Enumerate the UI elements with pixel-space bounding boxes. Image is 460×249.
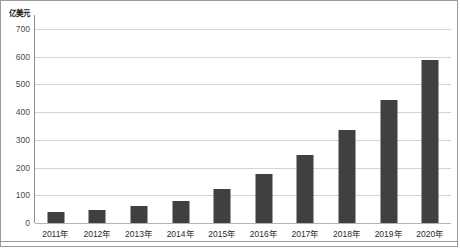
x-axis-tick-label: 2016年	[250, 227, 278, 239]
bar-slot	[160, 29, 202, 223]
bar-slot	[201, 29, 243, 223]
bar-slot	[35, 29, 77, 223]
bar-slot	[243, 29, 285, 223]
x-axis-tick-label: 2015年	[208, 227, 236, 239]
y-axis-tick-label: 600	[16, 52, 30, 62]
y-axis-tick-label: 100	[16, 190, 30, 200]
y-axis-tick-labels: 0100200300400500600700	[1, 29, 30, 223]
bar	[130, 206, 147, 223]
bar-slot	[77, 29, 119, 223]
x-axis-tick-label: 2020年	[416, 227, 444, 239]
x-axis-tick-label: 2017年	[291, 227, 319, 239]
x-axis-tick-label: 2011年	[42, 227, 69, 239]
x-axis-tick-label: 2019年	[375, 227, 403, 239]
bar	[297, 155, 314, 223]
y-axis-tick-label: 300	[16, 135, 30, 145]
bar	[255, 174, 272, 223]
x-axis-tick-label: 2018年	[333, 227, 361, 239]
bar-slot	[409, 29, 451, 223]
x-axis-tick-label: 2013年	[125, 227, 153, 239]
bar-series	[35, 29, 451, 223]
y-axis-tick-label: 700	[16, 24, 30, 34]
bar	[47, 212, 64, 223]
bar	[172, 201, 189, 223]
bar-slot	[368, 29, 410, 223]
x-axis-tick-label: 2012年	[83, 227, 111, 239]
y-axis-unit-label: 亿美元	[9, 9, 30, 18]
bar	[380, 100, 397, 223]
bar-slot	[285, 29, 327, 223]
bar	[422, 60, 439, 224]
bar	[214, 189, 231, 223]
x-axis-tick-label: 2014年	[167, 227, 195, 239]
y-axis-tick-label: 0	[25, 218, 30, 228]
bar-chart-container: 亿美元 0100200300400500600700 2011年2012年201…	[0, 0, 458, 247]
y-axis-tick-label: 400	[16, 107, 30, 117]
bar	[338, 130, 355, 223]
x-axis-tick-labels: 2011年2012年2013年2014年2015年2016年2017年2018年…	[35, 227, 451, 241]
y-axis-tick-label: 200	[16, 163, 30, 173]
y-axis-tick-label: 500	[16, 79, 30, 89]
gridline-0	[35, 223, 451, 224]
bar-slot	[326, 29, 368, 223]
bar-slot	[118, 29, 160, 223]
bar	[89, 210, 106, 223]
x-axis-divider	[1, 241, 457, 242]
